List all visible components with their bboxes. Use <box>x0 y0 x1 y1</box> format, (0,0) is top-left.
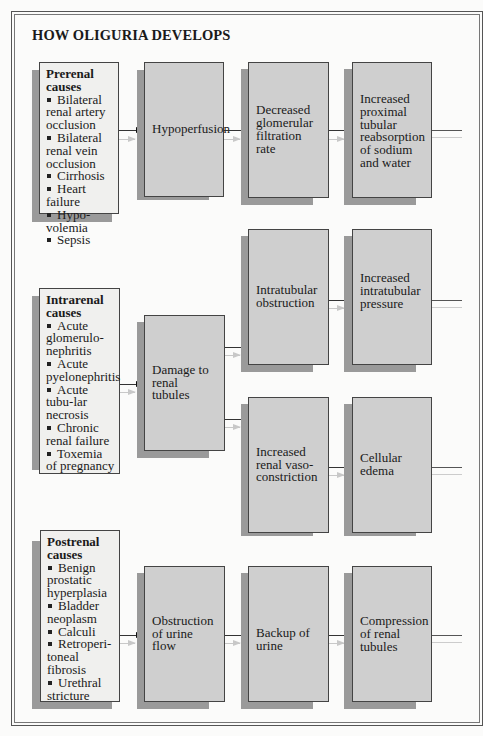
step-decreased-gfr: Decreased glomerular filtration rate <box>248 62 329 198</box>
cause-item: Hypo-volemia <box>46 209 114 235</box>
step-label: Hypoperfusion <box>152 123 230 136</box>
step-damage-tubules: Damage to renal tubules <box>144 315 225 451</box>
intrarenal-causes-box: Intrarenal causes Acute glomerulo-nephri… <box>39 288 120 474</box>
step-compression-tubules: Compression of renal tubules <box>352 566 432 702</box>
connector-shadow <box>432 307 462 308</box>
step-label: Intratubular obstruction <box>256 284 321 310</box>
cause-item: Urethral stricture <box>47 677 115 703</box>
step-increased-intratubular-pressure: Increased intratubular pressure <box>352 229 432 365</box>
step-increased-reabsorption: Increased proximal tubular reabsorption … <box>352 62 432 198</box>
step-renal-vasoconstriction: Increased renal vaso-constriction <box>248 397 329 533</box>
step-label: Backup of urine <box>256 627 321 653</box>
cause-item: Retroperi-toneal fibrosis <box>47 638 115 676</box>
arrow-shadow-icon <box>329 643 344 644</box>
connector-line <box>432 635 462 636</box>
diagram-title: HOW OLIGURIA DEVELOPS <box>32 27 230 44</box>
step-cellular-edema: Cellular edema <box>352 397 432 533</box>
step-label: Decreased glomerular filtration rate <box>256 104 321 155</box>
postrenal-heading: Postrenal causes <box>47 536 115 562</box>
prerenal-causes-box: Prerenal causes Bilateral renal artery o… <box>39 62 119 214</box>
connector-shadow <box>432 137 462 138</box>
arrow-shadow-icon <box>329 475 344 476</box>
cause-item: Benign prostatic hyperplasia <box>47 562 115 600</box>
intrarenal-heading: Intrarenal causes <box>46 294 115 320</box>
arrow-shadow-icon <box>329 308 344 309</box>
arrow-shadow-icon <box>120 643 135 644</box>
arrow-shadow-icon <box>329 139 344 140</box>
cause-item: Sepsis <box>46 234 114 247</box>
connector-line <box>432 467 462 468</box>
step-backup-urine: Backup of urine <box>248 566 329 702</box>
postrenal-causes-box: Postrenal causes Benign prostatic hyperp… <box>40 530 120 702</box>
cause-item: Bilateral renal vein occlusion <box>46 132 114 170</box>
step-label: Increased proximal tubular reabsorption … <box>360 93 425 170</box>
cause-item: Acute pyelonephritis <box>46 358 115 384</box>
connector-shadow <box>432 642 462 643</box>
connector-line <box>432 300 462 301</box>
step-obstruction-urine-flow: Obstruction of urine flow <box>144 566 225 702</box>
prerenal-heading: Prerenal causes <box>46 68 114 94</box>
arrow-shadow-icon <box>120 392 135 393</box>
step-label: Cellular edema <box>360 452 424 478</box>
arrow-shadow-icon <box>119 139 135 140</box>
cause-item: Chronic renal failure <box>46 422 115 448</box>
step-label: Increased intratubular pressure <box>360 272 424 310</box>
cause-item: Heart failure <box>46 183 114 209</box>
cause-item: Acute tubu-lar necrosis <box>46 384 115 422</box>
connector-line <box>432 130 462 131</box>
step-label: Obstruction of urine flow <box>152 615 217 653</box>
step-intratubular-obstruction: Intratubular obstruction <box>248 229 329 365</box>
step-label: Damage to renal tubules <box>152 364 217 402</box>
step-label: Compression of renal tubules <box>360 615 429 653</box>
step-label: Increased renal vaso-constriction <box>256 446 321 484</box>
arrow-shadow-icon <box>225 355 240 356</box>
arrow-shadow-icon <box>225 643 240 644</box>
connector-shadow <box>432 474 462 475</box>
cause-item: Toxemia of pregnancy <box>46 448 115 474</box>
step-hypoperfusion: Hypoperfusion <box>144 62 224 197</box>
cause-item: Bilateral renal artery occlusion <box>46 94 114 132</box>
cause-item: Acute glomerulo-nephritis <box>46 320 115 358</box>
arrow-shadow-icon <box>225 427 240 428</box>
cause-item: Bladder neoplasm <box>47 600 115 626</box>
arrow-shadow-icon <box>224 139 240 140</box>
